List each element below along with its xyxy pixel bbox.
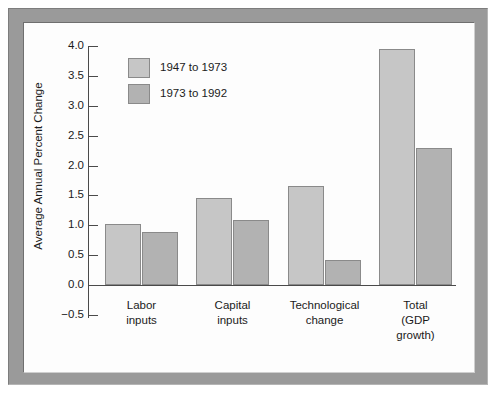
y-tick-label: 0.0 [50,279,84,290]
x-axis-baseline [88,285,456,286]
y-tick-label: 2.0 [50,160,84,171]
y-tick-mark [89,285,98,286]
y-axis-line [88,46,89,318]
bar [233,220,269,285]
y-tick-label: 3.5 [50,70,84,81]
y-tick-label: 2.5 [50,130,84,141]
y-tick-mark [89,195,98,196]
x-axis-category-label: Total(GDPgrowth) [356,298,476,343]
bar [142,232,178,285]
y-tick-mark [89,225,98,226]
bar [196,198,232,285]
y-axis-title: Average Annual Percent Change [32,66,44,266]
y-tick-mark [89,76,98,77]
bar-chart: 4.03.53.02.52.01.51.00.50.0−0.5 Average … [0,0,496,393]
bar [379,49,415,285]
y-tick-mark [89,166,98,167]
y-tick-mark [89,255,98,256]
bar [105,224,141,285]
legend-swatch [128,58,150,78]
y-tick-label: 1.5 [50,189,84,200]
legend-label: 1973 to 1992 [160,87,227,99]
y-tick-label: 4.0 [50,40,84,51]
x-axis-category-label-line: growth) [356,328,476,343]
y-tick-mark [89,106,98,107]
y-tick-label: −0.5 [50,309,84,320]
y-tick-label: 1.0 [50,219,84,230]
x-axis-category-label-line: Total [356,298,476,313]
y-tick-label: 0.5 [50,249,84,260]
x-axis-category-label-line: (GDP [356,313,476,328]
bar [325,260,361,285]
y-tick-mark [89,136,98,137]
legend-swatch [128,84,150,104]
bar [416,148,452,285]
bar [288,186,324,285]
legend-label: 1947 to 1973 [160,61,227,73]
y-tick-label: 3.0 [50,100,84,111]
y-tick-mark [89,46,98,47]
